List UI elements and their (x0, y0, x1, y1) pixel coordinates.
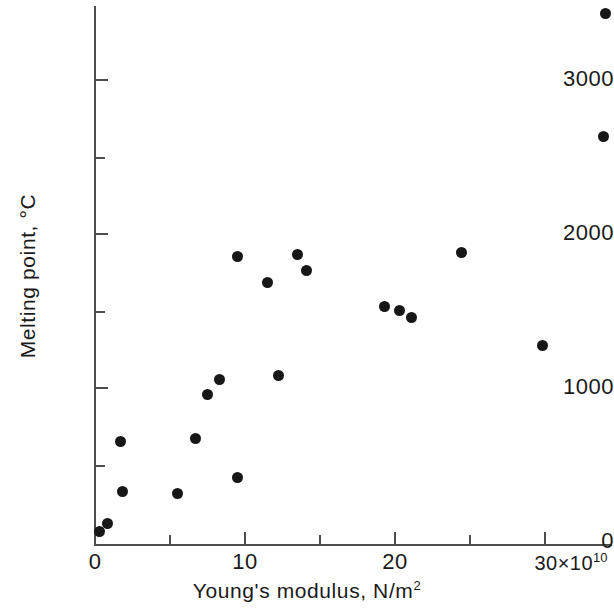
y-tick-2500 (96, 157, 105, 159)
y-tick-1500 (96, 311, 105, 313)
y-tick-label-3000: 3000 (538, 68, 614, 90)
data-point (537, 340, 548, 351)
x-tick-15 (319, 535, 321, 544)
data-point (394, 305, 405, 316)
y-tick-label-2000: 2000 (538, 222, 614, 244)
data-point (273, 370, 284, 381)
x-tick-label-0: 0 (89, 551, 102, 573)
data-point (262, 277, 273, 288)
data-point (232, 472, 243, 483)
data-point (301, 265, 312, 276)
scatter-plot-figure: 3000 2000 1000 0 0 10 20 30×1010 Young's… (0, 0, 614, 608)
data-point (456, 247, 467, 258)
data-point (190, 433, 201, 444)
y-tick-1000 (96, 387, 108, 389)
data-point (202, 389, 213, 400)
data-point (117, 486, 128, 497)
y-tick-3000 (96, 79, 108, 81)
data-point (292, 249, 303, 260)
x-tick-20 (394, 532, 396, 544)
data-point (232, 251, 243, 262)
data-point (406, 312, 417, 323)
x-axis-line (94, 544, 612, 546)
x-exponent-base: 30×10 (534, 552, 593, 574)
x-exponent-superscript: 10 (593, 550, 607, 565)
data-point (598, 131, 609, 142)
x-axis-title-superscript: 2 (413, 578, 421, 593)
x-axis-title: Young's modulus, N/m2 (0, 578, 614, 603)
plot-data-area (0, 0, 614, 608)
x-tick-label-10: 10 (232, 551, 257, 573)
x-tick-label-20: 20 (382, 551, 407, 573)
y-tick-2000 (96, 233, 108, 235)
data-point (379, 301, 390, 312)
data-point (115, 436, 126, 447)
y-tick-label-0: 0 (538, 530, 614, 552)
data-point (600, 8, 611, 19)
x-tick-25 (469, 535, 471, 544)
x-axis-title-text: Young's modulus, N/m (193, 579, 414, 602)
y-axis-title: Melting point, °C (16, 156, 40, 396)
data-point (102, 518, 113, 529)
x-tick-5 (169, 535, 171, 544)
y-tick-500 (96, 465, 105, 467)
data-point (214, 374, 225, 385)
x-tick-label-30-exponent: 30×1010 (534, 551, 607, 574)
data-point (172, 488, 183, 499)
y-tick-label-1000: 1000 (538, 376, 614, 398)
x-tick-0 (94, 532, 96, 544)
x-tick-10 (244, 532, 246, 544)
x-tick-30 (544, 532, 546, 544)
